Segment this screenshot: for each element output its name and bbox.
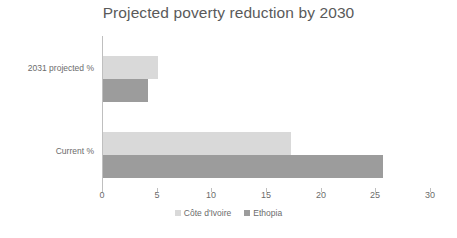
bar-current-cote-divoire[interactable] [103, 132, 291, 155]
bar-current-ethopia[interactable] [103, 155, 383, 178]
legend-item-ethopia[interactable]: Ethopia [244, 208, 282, 218]
y-axis-label-projected: 2031 projected % [2, 63, 94, 73]
legend-item-cote-divoire[interactable]: Côte d'Ivoire [175, 208, 231, 218]
bar-chart: Projected poverty reduction by 2030 2031… [0, 0, 457, 238]
bar-projected-ethopia[interactable] [103, 79, 148, 102]
bar-projected-cote-divoire[interactable] [103, 56, 158, 79]
y-axis-label-current: Current % [2, 146, 94, 156]
x-axis-tick-label-5: 5 [142, 190, 172, 201]
legend-swatch-icon-cote-divoire [175, 210, 181, 216]
chart-legend: Côte d'Ivoire Ethopia [0, 208, 457, 218]
x-axis-tick-label-25: 25 [360, 190, 390, 201]
x-axis-tick-label-15: 15 [251, 190, 281, 201]
legend-swatch-icon-ethopia [244, 210, 250, 216]
x-axis-tick-label-0: 0 [87, 190, 117, 201]
legend-label-ethopia: Ethopia [253, 208, 282, 218]
plot-area [102, 36, 430, 188]
x-axis-tick-label-20: 20 [306, 190, 336, 201]
x-axis-tick-label-10: 10 [196, 190, 226, 201]
chart-title: Projected poverty reduction by 2030 [0, 4, 457, 22]
legend-label-cote-divoire: Côte d'Ivoire [184, 208, 231, 218]
x-axis-tick-label-30: 30 [415, 190, 445, 201]
